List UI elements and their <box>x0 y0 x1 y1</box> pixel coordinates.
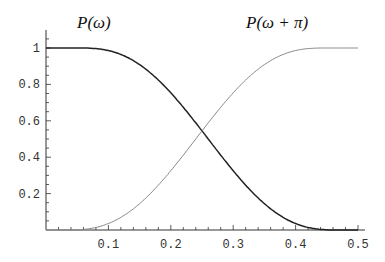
y-tick-label: 1 <box>33 42 40 56</box>
curve-0 <box>46 48 358 230</box>
y-tick-label: 0.6 <box>18 115 40 129</box>
label-p-omega: P(ω) <box>76 13 111 32</box>
chart: 0.10.20.30.40.50.20.40.60.81 P(ω) P(ω + … <box>0 0 385 262</box>
x-tick-label: 0.4 <box>285 238 307 252</box>
x-tick-label: 0.5 <box>347 238 369 252</box>
label-p-omega-plus-pi: P(ω + π) <box>245 13 309 32</box>
x-tick-label: 0.1 <box>98 238 120 252</box>
x-tick-label: 0.2 <box>160 238 182 252</box>
x-tick-label: 0.3 <box>222 238 244 252</box>
y-tick-label: 0.2 <box>18 188 40 202</box>
curves <box>46 48 358 230</box>
curve-1 <box>46 48 358 230</box>
y-tick-label: 0.4 <box>18 151 40 165</box>
y-tick-label: 0.8 <box>18 78 40 92</box>
